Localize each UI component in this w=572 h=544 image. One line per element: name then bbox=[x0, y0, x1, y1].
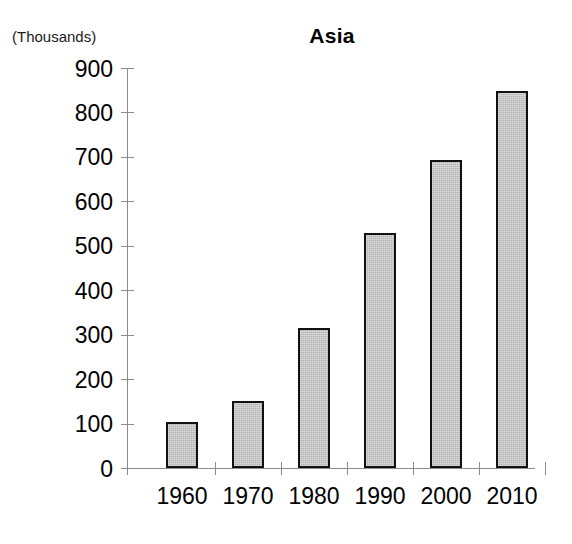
bar-series bbox=[127, 68, 535, 468]
chart-title: Asia bbox=[128, 24, 536, 48]
y-tick-label: 300 bbox=[75, 324, 113, 347]
x-axis-label: 1990 bbox=[347, 482, 413, 510]
y-tick-label: 100 bbox=[75, 413, 113, 436]
y-tick-label: 200 bbox=[75, 368, 113, 391]
bar[interactable] bbox=[166, 422, 198, 468]
bar-chart: (Thousands) Asia 01002003004005006007008… bbox=[0, 0, 572, 544]
bar-slot bbox=[149, 68, 215, 468]
plot-area: 0100200300400500600700800900 bbox=[127, 68, 535, 468]
bar-slot bbox=[347, 68, 413, 468]
x-axis-labels: 196019701980199020002010 bbox=[127, 482, 535, 516]
x-axis-label: 1970 bbox=[215, 482, 281, 510]
bar-slot bbox=[281, 68, 347, 468]
bar[interactable] bbox=[364, 233, 396, 468]
y-tick-label: 600 bbox=[75, 190, 113, 213]
bar[interactable] bbox=[430, 160, 462, 468]
y-tick-label: 900 bbox=[75, 57, 113, 80]
y-tick-label: 0 bbox=[100, 457, 113, 480]
y-tick-label: 800 bbox=[75, 101, 113, 124]
y-tick-label: 400 bbox=[75, 279, 113, 302]
bar[interactable] bbox=[232, 401, 264, 468]
bar[interactable] bbox=[298, 328, 330, 468]
x-axis-label: 2000 bbox=[413, 482, 479, 510]
y-tick-label: 500 bbox=[75, 235, 113, 258]
x-axis-label: 1980 bbox=[281, 482, 347, 510]
bar[interactable] bbox=[496, 91, 528, 468]
x-axis-line bbox=[127, 468, 535, 469]
y-tick-label: 700 bbox=[75, 146, 113, 169]
x-axis-label: 1960 bbox=[149, 482, 215, 510]
x-tick-mark bbox=[545, 462, 546, 475]
bar-slot bbox=[479, 68, 545, 468]
bar-slot bbox=[215, 68, 281, 468]
axis-unit-label: (Thousands) bbox=[12, 28, 96, 46]
x-axis-label: 2010 bbox=[479, 482, 545, 510]
bar-slot bbox=[413, 68, 479, 468]
